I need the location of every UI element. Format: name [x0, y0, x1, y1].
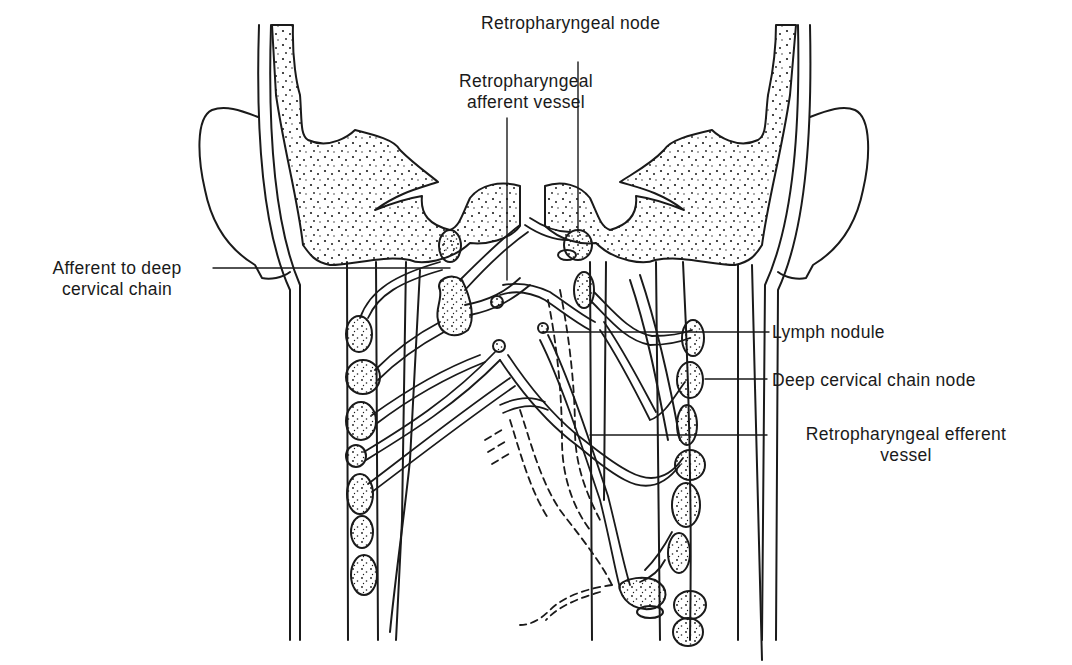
lymphatic-vessels [360, 218, 692, 588]
lymphatic-anatomy-diagram: Retropharyngeal node Retropharyngeal aff… [0, 0, 1072, 665]
right-deep-cervical-chain [668, 320, 706, 646]
label-lymph-nodule: Lymph nodule [772, 322, 885, 343]
label-retropharyngeal-afferent-vessel: Retropharyngeal afferent vessel [456, 71, 596, 113]
label-afferent-to-deep-cervical-chain: Afferent to deep cervical chain [22, 258, 212, 300]
label-retropharyngeal-efferent-vessel: Retropharyngeal efferent vessel [770, 424, 1042, 466]
posterior-wall-strokes [500, 398, 548, 413]
label-retropharyngeal-node: Retropharyngeal node [481, 13, 660, 34]
label-deep-cervical-chain-node: Deep cervical chain node [772, 370, 976, 391]
